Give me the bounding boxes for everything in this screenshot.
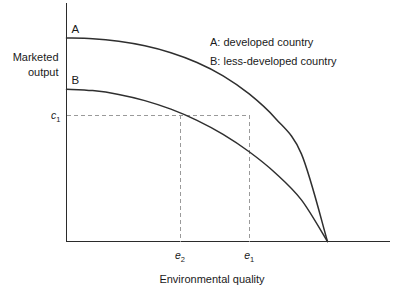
- legend-entry-b: B: less-developed country: [210, 55, 337, 67]
- curve-b-less-developed-country: [67, 89, 328, 241]
- y-tick-label-c1: c1: [51, 109, 60, 124]
- figure-container: Marketed output Environmental quality A …: [0, 0, 396, 294]
- x-tick-e1-subscript: 1: [250, 255, 254, 264]
- curve-a-label: A: [72, 23, 80, 35]
- y-axis-label-line1: Marketed: [13, 51, 59, 63]
- x-tick-label-e2: e2: [175, 249, 185, 264]
- y-axis-label-line2: output: [28, 66, 59, 78]
- x-tick-label-e1: e1: [244, 249, 254, 264]
- y-tick-c1-subscript: 1: [56, 115, 60, 124]
- x-tick-e2-subscript: 2: [181, 255, 185, 264]
- legend-entry-a: A: developed country: [210, 36, 314, 48]
- x-axis-label: Environmental quality: [159, 273, 265, 285]
- curve-b-label: B: [72, 74, 80, 86]
- chart-canvas: Marketed output Environmental quality A …: [0, 0, 396, 294]
- curve-a-developed-country: [67, 38, 328, 242]
